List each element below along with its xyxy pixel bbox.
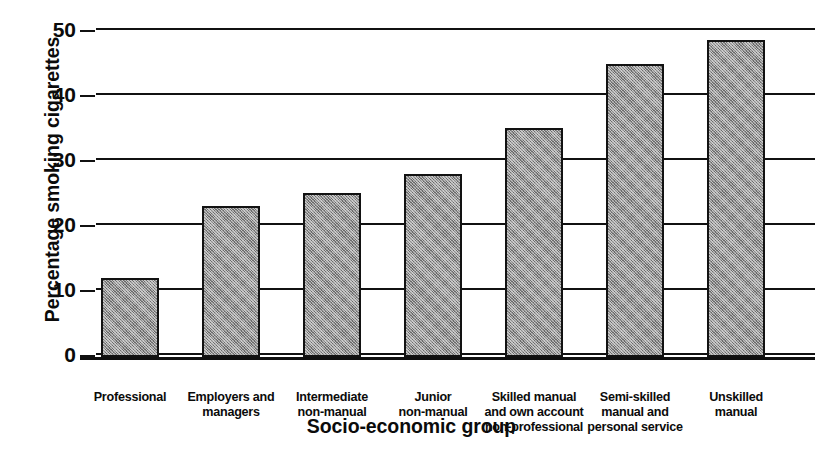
bar-unskilled-manual (707, 40, 765, 357)
bar-employers-managers (202, 206, 260, 357)
x-axis-baseline (80, 357, 815, 360)
y-tick-label-40: 40 (16, 84, 76, 105)
x-tick-label-professional: Professional (75, 390, 185, 405)
bar-professional (101, 278, 159, 357)
plot-area: 0 10 20 30 40 50 (96, 28, 815, 357)
x-tick-label-line: Professional (75, 390, 185, 405)
y-tick-label-0: 0 (16, 344, 76, 365)
x-axis-title: Socio-economic group (0, 415, 823, 438)
x-tick-label-line: Intermediate (277, 390, 387, 405)
bar-intermediate-non-manual (303, 193, 361, 358)
y-tick-mark-40 (80, 95, 95, 97)
y-tick-label-10: 10 (16, 279, 76, 300)
bar-semi-skilled-manual (606, 64, 664, 357)
bar-junior-non-manual (404, 174, 462, 357)
y-tick-label-30: 30 (16, 149, 76, 170)
y-tick-mark-10 (80, 290, 95, 292)
y-tick-label-20: 20 (16, 214, 76, 235)
x-tick-label-line: Employers and (176, 390, 286, 405)
gridline-50: 50 (96, 28, 815, 30)
x-tick-label-line: Semi-skilled (574, 390, 696, 405)
bar-chart-figure: Percentage smoking cigarettes 0 10 20 30… (0, 0, 823, 454)
y-tick-label-50: 50 (16, 19, 76, 40)
bar-skilled-manual (505, 128, 563, 357)
y-tick-mark-20 (80, 225, 95, 227)
y-tick-mark-30 (80, 160, 95, 162)
x-tick-label-line: Unskilled (681, 390, 791, 405)
y-tick-mark-50 (80, 30, 95, 32)
